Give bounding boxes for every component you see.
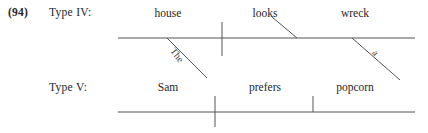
row-label-type-v: Type V: — [49, 82, 87, 94]
diagram-lines — [0, 0, 428, 133]
diagram-word-verb-type-v: prefers — [249, 82, 281, 94]
row-label-type-iv: Type IV: — [49, 7, 92, 19]
diagram-word-subject-type-v: Sam — [158, 82, 178, 94]
modifier-slant-a — [352, 38, 400, 80]
diagram-word-object-type-v: popcorn — [336, 82, 374, 94]
complement-divider-type-iv — [272, 17, 297, 38]
example-number: (94) — [8, 7, 28, 19]
diagram-word-complement-type-iv: wreck — [341, 8, 369, 20]
diagram-word-verb-type-iv: looks — [253, 8, 278, 20]
sentence-diagram-figure: (94) Type IV: house looks wreck The a Ty… — [0, 0, 428, 133]
diagram-word-subject-type-iv: house — [155, 8, 182, 20]
